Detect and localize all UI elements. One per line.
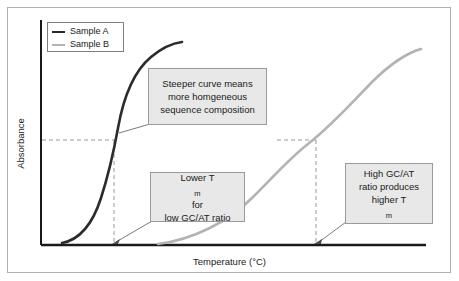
callout-steeper-line2: more homgeneous [160, 90, 255, 103]
x-axis-label: Temperature (°C) [0, 256, 459, 267]
callout-high-gc-line3: higher Tm [359, 193, 419, 220]
callout-steeper-line3: sequence composition [160, 103, 255, 116]
leader-high-gc-callout [319, 222, 346, 242]
legend-item-sample-b: Sample B [52, 38, 119, 51]
callout-lower-tm-line2: low GC/AT ratio [164, 211, 230, 224]
leader-lower-tm-callout [116, 221, 152, 242]
callout-steeper-curve: Steeper curve means more homgeneous sequ… [148, 68, 267, 125]
callout-lower-tm-line1-post: for [164, 198, 230, 211]
leader-steeper-callout [119, 124, 150, 133]
callout-lower-tm-line1-pre: Lower T [164, 171, 230, 184]
callout-high-gc-ratio: High GC/AT ratio produces higher Tm [345, 163, 433, 224]
legend-label-sample-a: Sample A [70, 26, 109, 37]
arrowhead-tm-sample-b [314, 239, 322, 244]
callout-high-gc-subscript: m [386, 211, 392, 220]
legend-label-sample-b: Sample B [70, 39, 109, 50]
callout-high-gc-line2: ratio produces [359, 180, 419, 193]
legend: Sample A Sample B [47, 22, 124, 52]
legend-swatch-sample-a [52, 31, 65, 33]
melting-curve-figure: Sample A Sample B Steeper curve means mo… [0, 0, 459, 281]
callout-lower-tm: Lower Tm for low GC/AT ratio [150, 172, 245, 222]
callout-high-gc-line1: High GC/AT [359, 167, 419, 180]
callout-lower-tm-line1: Lower Tm for [164, 171, 230, 211]
legend-item-sample-a: Sample A [52, 25, 119, 38]
callout-steeper-line1: Steeper curve means [160, 77, 255, 90]
callout-high-gc-line3-pre: higher T [359, 193, 419, 206]
callout-lower-tm-subscript: m [194, 189, 200, 198]
arrowhead-tm-sample-a [112, 239, 120, 244]
y-axis-label: Absorbance [15, 94, 26, 194]
legend-swatch-sample-b [52, 44, 65, 46]
